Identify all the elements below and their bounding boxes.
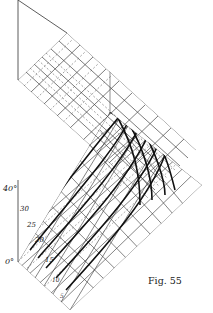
upper-grid (18, 33, 196, 198)
axis-label-10: 10 (52, 277, 60, 283)
axis-label-5: 5 (60, 293, 64, 299)
figure-caption: Fig. 55 (148, 276, 182, 286)
axis-label-30: 30 (20, 206, 29, 213)
axis-label-20: 20 (35, 237, 44, 244)
diagram-figure (0, 0, 213, 313)
axis-label-40: 40° (3, 185, 17, 193)
axis-label-25: 25 (27, 222, 36, 229)
axis-label-0: 0° (5, 258, 14, 266)
lower-grid (0, 50, 213, 313)
axis-label-15: 15 (45, 257, 54, 264)
